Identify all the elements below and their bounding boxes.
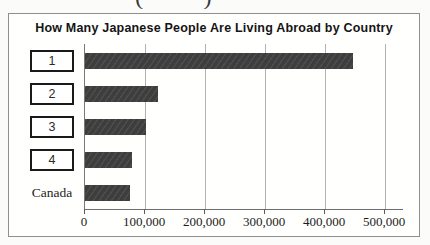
x-tick-label: 500,000	[352, 214, 416, 230]
x-tick-label: 100,000	[112, 214, 176, 230]
category-row-1: 1	[21, 50, 83, 72]
category-box-label: 3	[30, 116, 74, 138]
x-tick-label: 200,000	[172, 214, 236, 230]
bar-3	[85, 119, 146, 135]
gridline	[265, 44, 266, 209]
category-box-label: 2	[30, 83, 74, 105]
cropped-text-fragment: ( )	[132, 0, 227, 9]
x-tick-label: 300,000	[232, 214, 296, 230]
bar-canada	[85, 185, 130, 201]
gridline	[325, 44, 326, 209]
category-box-label: 1	[30, 50, 74, 72]
bar-4	[85, 152, 132, 168]
plot-area	[84, 44, 403, 210]
chart-frame: How Many Japanese People Are Living Abro…	[8, 13, 420, 237]
category-row-canada: Canada	[21, 182, 83, 204]
category-row-2: 2	[21, 83, 83, 105]
cropped-paren-left-glyph: (	[134, 0, 143, 9]
gridline	[385, 44, 386, 209]
bar-2	[85, 86, 158, 102]
category-text-label: Canada	[32, 185, 72, 201]
gridline	[205, 44, 206, 209]
category-row-4: 4	[21, 149, 83, 171]
x-tick-label: 400,000	[292, 214, 356, 230]
category-box-label: 4	[30, 149, 74, 171]
cropped-paren-right-glyph: )	[203, 0, 212, 9]
bar-1	[85, 53, 353, 69]
scanned-chart-page: ( ) How Many Japanese People Are Living …	[0, 0, 430, 245]
category-row-3: 3	[21, 116, 83, 138]
x-tick-label: 0	[52, 214, 116, 230]
chart-title: How Many Japanese People Are Living Abro…	[9, 21, 419, 35]
